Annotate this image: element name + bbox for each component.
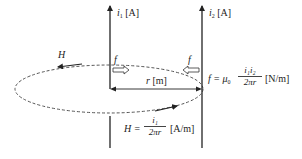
force-arrow-left-wire: [113, 66, 129, 74]
field-label-h: H: [58, 50, 65, 60]
wire-2-current-label: i2 [A]: [209, 8, 231, 19]
field-formula-unit: [A/m]: [170, 124, 194, 134]
force-formula-fraction: i₁i₂ 2πr: [238, 66, 262, 87]
force-formula-lhs: f = μ0: [208, 74, 231, 85]
distance-label: r [m]: [146, 76, 167, 86]
force-label-right: f: [188, 55, 191, 65]
field-formula-lhs: H =: [124, 124, 140, 134]
field-formula-fraction: i₁ 2πr: [144, 116, 166, 137]
field-arrow-bottom: [155, 106, 177, 111]
wire-1-current-label: i1 [A]: [117, 8, 139, 19]
force-label-left: f: [114, 55, 117, 65]
force-arrow-right-wire: [183, 66, 199, 74]
force-formula-unit: [N/m]: [265, 74, 289, 84]
